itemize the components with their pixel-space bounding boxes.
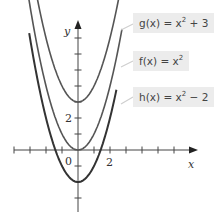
y-axis-arrow-icon (75, 20, 82, 29)
chart: y x 0 2 2 g(x) = x2 + 3 f(x) = x2 h(x) =… (0, 0, 214, 218)
label-leaders (121, 24, 133, 104)
y-tick-label-2: 2 (65, 112, 72, 125)
x-tick-label-2: 2 (106, 156, 113, 169)
origin-label: 0 (65, 155, 72, 168)
label-text: g(x) = x (139, 17, 182, 29)
x-axis-arrow-icon (189, 147, 198, 154)
x-axis-label: x (188, 158, 195, 171)
curves (26, 0, 122, 182)
legend-label-g: g(x) = x2 + 3 (133, 13, 214, 33)
legend-label-f: f(x) = x2 (133, 51, 189, 71)
label-tail: + 3 (186, 17, 208, 29)
label-text: f(x) = x (139, 55, 179, 67)
legend-label-h: h(x) = x2 − 2 (133, 87, 214, 107)
label-exponent: 2 (179, 54, 183, 62)
label-tail: − 2 (186, 91, 208, 103)
y-axis-label: y (63, 25, 71, 38)
label-text: h(x) = x (139, 91, 182, 103)
